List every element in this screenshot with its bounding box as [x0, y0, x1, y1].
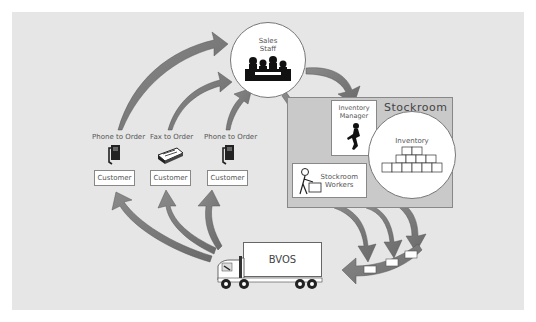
sales-staff-label-2: Staff [256, 45, 280, 53]
package-2 [386, 259, 398, 266]
phone-icon [107, 144, 121, 166]
stockroom-workers-label-1: Stockroom [321, 173, 358, 181]
inventory-manager-label-2: Manager [340, 112, 369, 120]
sales-staff-label-1: Sales [256, 37, 280, 45]
customer-box-1: Customer [94, 170, 135, 186]
inventory-manager-label-1: Inventory [338, 104, 369, 112]
channel-label-1: Phone to Order [92, 133, 138, 141]
channel-label-2: Fax to Order [150, 133, 192, 141]
running-person-icon [344, 122, 364, 152]
inventory-bricks-icon [381, 146, 443, 174]
inventory-label: Inventory [394, 137, 430, 145]
package-3 [405, 251, 417, 258]
arrow-shipping-to-truck [342, 244, 422, 284]
channel-label-3: Phone to Order [204, 133, 250, 141]
worker-lifting-box-icon [297, 167, 323, 195]
customer-box-2: Customer [150, 170, 191, 186]
phone-icon [221, 144, 235, 166]
arrow-customer1-to-sales [118, 32, 228, 130]
package-1 [364, 266, 376, 273]
truck-cab-icon [214, 254, 326, 292]
meeting-people-icon [243, 55, 293, 85]
arrow-customer2-to-sales [168, 72, 232, 130]
arrow-stockroom-to-shipping-1 [334, 204, 376, 262]
fax-icon [155, 145, 185, 165]
stockroom-workers-box: Stockroom Workers [292, 163, 367, 198]
customer-box-3: Customer [207, 170, 248, 186]
arrow-customer3-to-sales [226, 88, 252, 130]
stockroom-workers-label-2: Workers [325, 181, 353, 189]
